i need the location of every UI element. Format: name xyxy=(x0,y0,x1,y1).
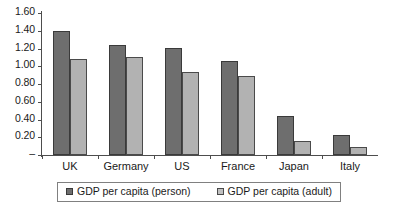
legend-item-adult: GDP per capita (adult) xyxy=(217,185,332,198)
x-label-italy: Italy xyxy=(322,160,378,173)
legend-label-adult: GDP per capita (adult) xyxy=(228,185,332,198)
bar-group xyxy=(154,13,210,155)
y-tick-label: 1.20 xyxy=(15,42,35,53)
x-tick-mark xyxy=(210,155,211,159)
legend-item-person: GDP per capita (person) xyxy=(66,185,191,198)
y-tick-label: 1.40 xyxy=(15,24,35,35)
bar-chart: 1.601.401.201.000.800.600.400.20– UKGerm… xyxy=(0,0,401,208)
x-tick-mark xyxy=(98,155,99,159)
bar-us-person xyxy=(165,48,182,155)
bar-japan-person xyxy=(277,116,294,155)
bar-uk-person xyxy=(53,31,70,155)
y-tick-label: 1.60 xyxy=(15,6,35,17)
bar-germany-person xyxy=(109,45,126,155)
y-tick-label: – xyxy=(29,148,35,159)
x-label-japan: Japan xyxy=(266,160,322,173)
x-tick-mark xyxy=(42,155,43,159)
bar-pair xyxy=(42,13,98,155)
bar-group xyxy=(322,13,378,155)
y-tick-label: 0.80 xyxy=(15,77,35,88)
x-label-germany: Germany xyxy=(98,160,154,173)
bar-us-adult xyxy=(182,72,199,155)
x-label-us: US xyxy=(154,160,210,173)
x-label-france: France xyxy=(210,160,266,173)
plot-area xyxy=(42,13,378,155)
legend-label-person: GDP per capita (person) xyxy=(77,185,191,198)
legend-swatch-person-icon xyxy=(66,188,73,195)
x-label-uk: UK xyxy=(42,160,98,173)
bar-pair xyxy=(266,13,322,155)
bar-pair xyxy=(210,13,266,155)
bar-group xyxy=(266,13,322,155)
y-tick-label: 0.60 xyxy=(15,95,35,106)
legend-swatch-adult-icon xyxy=(217,188,224,195)
bar-italy-adult xyxy=(350,147,367,155)
bar-uk-adult xyxy=(70,59,87,155)
bar-italy-person xyxy=(333,135,350,155)
x-tick-mark xyxy=(154,155,155,159)
bar-pair xyxy=(154,13,210,155)
bar-germany-adult xyxy=(126,57,143,155)
x-tick-mark xyxy=(266,155,267,159)
y-tick-label: 0.40 xyxy=(15,113,35,124)
x-tick-mark xyxy=(322,155,323,159)
bar-pair xyxy=(322,13,378,155)
y-tick-label: 0.20 xyxy=(15,130,35,141)
chart-legend: GDP per capita (person) GDP per capita (… xyxy=(57,182,341,202)
y-tick-label: 1.00 xyxy=(15,59,35,70)
bar-france-person xyxy=(221,61,238,155)
bar-japan-adult xyxy=(294,141,311,155)
bar-group xyxy=(98,13,154,155)
bar-pair xyxy=(98,13,154,155)
bar-group xyxy=(210,13,266,155)
bar-group xyxy=(42,13,98,155)
bar-france-adult xyxy=(238,76,255,155)
